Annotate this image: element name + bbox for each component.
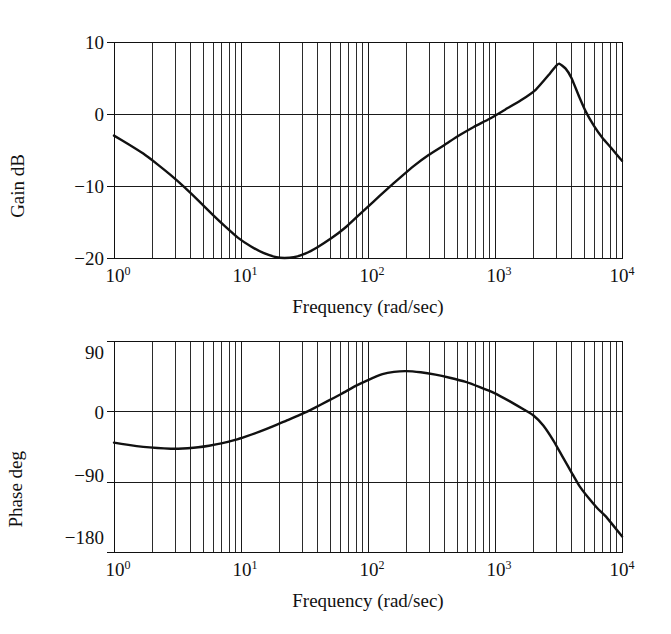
phase-ytick-label: 90 [30, 343, 104, 362]
gain-xtick-label: 104 [610, 266, 635, 285]
phase-xtick-label: 104 [610, 560, 635, 579]
phase-ytick-label: −90 [30, 466, 104, 485]
gain-xtick-label: 100 [106, 266, 131, 285]
phase-xtick-label: 103 [487, 560, 512, 579]
phase-ytick-label: −180 [30, 528, 104, 547]
bode-plot-figure: 10 0 −10 −20 100 101 102 103 104 Frequen… [0, 0, 671, 634]
phase-xtick-label: 100 [106, 560, 131, 579]
gain-y-axis-title: Gain dB [7, 154, 29, 218]
gain-plot-panel: 10 0 −10 −20 100 101 102 103 104 Frequen… [0, 0, 671, 320]
phase-xtick-label: 101 [233, 560, 258, 579]
phase-x-axis-title: Frequency (rad/sec) [292, 590, 443, 612]
gain-xtick-label: 102 [360, 266, 385, 285]
phase-ytick-label: 0 [30, 403, 104, 422]
gain-ytick-label: −20 [48, 249, 104, 268]
gain-xtick-label: 101 [233, 266, 258, 285]
phase-y-axis-title: Phase deg [5, 451, 27, 528]
gain-xtick-label: 103 [487, 266, 512, 285]
gain-ytick-label: −10 [48, 177, 104, 196]
gain-ytick-label: 0 [48, 105, 104, 124]
gain-ytick-label: 10 [48, 33, 104, 52]
phase-plot-panel: 90 0 −90 −180 100 101 102 103 104 Freque… [0, 314, 671, 634]
phase-xtick-label: 102 [360, 560, 385, 579]
